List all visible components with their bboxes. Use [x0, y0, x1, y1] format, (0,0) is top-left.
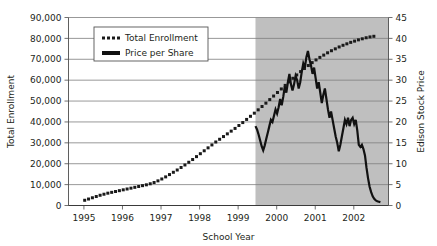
enrollment-dot — [141, 184, 144, 187]
y2tick-label-6: 30 — [396, 75, 408, 85]
enrollment-dot — [357, 38, 360, 41]
enrollment-dot — [180, 166, 183, 169]
enrollment-dot — [372, 35, 375, 38]
ytick-label-8: 80,000 — [30, 34, 62, 44]
enrollment-dot — [368, 35, 371, 38]
ytick-label-6: 60,000 — [30, 75, 62, 85]
enrollment-dot — [361, 37, 364, 40]
y2tick-label-4: 20 — [396, 117, 408, 127]
enrollment-dot — [338, 45, 341, 48]
enrollment-dot — [156, 179, 159, 182]
enrollment-dot — [126, 187, 129, 190]
enrollment-dot — [245, 118, 248, 121]
ytick-label-9: 90,000 — [30, 13, 62, 23]
legend-swatch-dotted — [112, 37, 115, 40]
enrollment-dot — [145, 183, 148, 186]
xtick-label-6: 2001 — [304, 213, 327, 223]
legend-swatch-dotted — [107, 37, 110, 40]
ytick-label-3: 30,000 — [30, 138, 62, 148]
x-axis-title: School Year — [203, 232, 255, 242]
xtick-label-5: 2000 — [265, 213, 288, 223]
enrollment-dot — [210, 143, 213, 146]
enrollment-dot — [153, 181, 156, 184]
enrollment-dot — [83, 199, 86, 202]
enrollment-dot — [137, 185, 140, 188]
xtick-label-3: 1998 — [188, 213, 211, 223]
enrollment-dot — [326, 51, 329, 54]
enrollment-dot — [322, 54, 325, 57]
enrollment-dot — [149, 182, 152, 185]
enrollment-dot — [230, 130, 233, 133]
enrollment-dot — [315, 58, 318, 61]
ytick-label-0: 0 — [56, 201, 62, 211]
enrollment-dot — [164, 175, 167, 178]
ytick-label-2: 20,000 — [30, 159, 62, 169]
chart-legend: Total EnrollmentPrice per Share — [94, 27, 208, 61]
enrollment-dot — [168, 173, 171, 176]
xtick-label-2: 1997 — [150, 213, 173, 223]
y2tick-label-9: 45 — [396, 13, 407, 23]
enrollment-dot — [203, 149, 206, 152]
xtick-label-0: 1995 — [72, 213, 95, 223]
enrollment-dot — [365, 36, 368, 39]
enrollment-dot — [176, 168, 179, 171]
enrollment-dot — [110, 191, 113, 194]
enrollment-dot — [172, 171, 175, 174]
enrollment-dot — [318, 56, 321, 59]
ytick-label-5: 50,000 — [30, 96, 62, 106]
enrollment-dot — [237, 124, 240, 127]
enrollment-dot — [122, 188, 125, 191]
enrollment-dot — [129, 187, 132, 190]
enrollment-dot — [345, 42, 348, 45]
enrollment-dot — [261, 105, 264, 108]
enrollment-dot — [280, 87, 283, 90]
enrollment-dot — [353, 40, 356, 43]
y2tick-label-8: 40 — [396, 34, 408, 44]
enrollment-dot — [114, 190, 117, 193]
enrollment-dot — [118, 189, 121, 192]
enrollment-dot — [91, 196, 94, 199]
ytick-label-1: 10,000 — [30, 180, 62, 190]
xtick-label-7: 2002 — [342, 213, 365, 223]
legend-label-1: Total Enrollment — [124, 33, 198, 43]
legend-swatch-solid — [102, 51, 120, 55]
legend-swatch-dotted — [117, 37, 120, 40]
enrollment-dot — [234, 127, 237, 130]
enrollment-dot — [226, 132, 229, 135]
enrollment-dot — [87, 198, 90, 201]
enrollment-dot — [330, 49, 333, 52]
enrollment-dot — [241, 121, 244, 124]
ytick-label-7: 70,000 — [30, 54, 62, 64]
y2tick-label-7: 35 — [396, 54, 407, 64]
enrollment-dot — [102, 193, 105, 196]
y-axis-title: Total Enrollment — [6, 75, 16, 149]
enrollment-dot — [253, 112, 256, 115]
enrollment-dot — [95, 195, 98, 198]
enrollment-dot — [199, 152, 202, 155]
enrollment-dot — [222, 135, 225, 138]
chart-container: 010,00020,00030,00040,00050,00060,00070,… — [0, 0, 437, 246]
y2tick-label-2: 10 — [396, 159, 408, 169]
enrollment-dot — [106, 192, 109, 195]
legend-label-2: Price per Share — [125, 48, 194, 58]
xtick-label-4: 1999 — [227, 213, 250, 223]
enrollment-dot — [133, 186, 136, 189]
y2tick-label-0: 0 — [396, 201, 402, 211]
enrollment-dot — [272, 95, 275, 98]
enrollment-dot — [334, 47, 337, 50]
enrollment-dot — [195, 155, 198, 158]
enrollment-dot — [207, 146, 210, 149]
y2-axis-title: Edison Stock Price — [416, 70, 426, 153]
enrollment-dot — [276, 91, 279, 94]
enrollment-stock-price-chart: 010,00020,00030,00040,00050,00060,00070,… — [0, 0, 437, 246]
enrollment-dot — [214, 140, 217, 143]
enrollment-dot — [249, 115, 252, 118]
enrollment-dot — [349, 41, 352, 44]
enrollment-dot — [307, 64, 310, 67]
enrollment-dot — [264, 102, 267, 105]
enrollment-dot — [183, 163, 186, 166]
enrollment-dot — [218, 138, 221, 141]
enrollment-dot — [187, 161, 190, 164]
y2tick-label-5: 25 — [396, 96, 407, 106]
enrollment-dot — [342, 44, 345, 47]
